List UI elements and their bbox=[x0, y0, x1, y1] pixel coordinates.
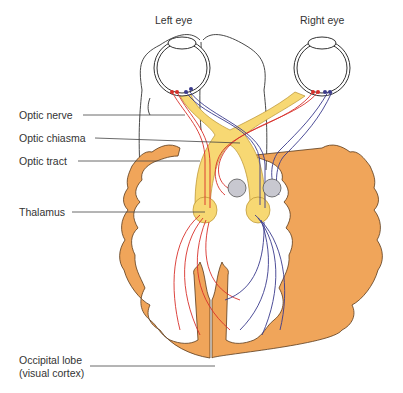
visual-pathway-diagram bbox=[0, 0, 403, 393]
right-eye bbox=[294, 37, 350, 96]
label-left-eye: Left eye bbox=[155, 14, 192, 26]
right-cortex bbox=[212, 145, 382, 358]
label-optic-nerve: Optic nerve bbox=[19, 109, 73, 121]
left-eye bbox=[154, 37, 210, 96]
left-cortex bbox=[120, 145, 210, 358]
label-occipital-lobe: Occipital lobe bbox=[19, 354, 82, 366]
label-visual-cortex: (visual cortex) bbox=[19, 367, 84, 379]
label-optic-chiasma: Optic chiasma bbox=[19, 132, 86, 144]
label-optic-tract: Optic tract bbox=[19, 155, 67, 167]
label-right-eye: Right eye bbox=[300, 14, 344, 26]
right-colliculus bbox=[263, 179, 281, 197]
left-colliculus bbox=[228, 179, 246, 197]
label-thalamus: Thalamus bbox=[19, 206, 65, 218]
